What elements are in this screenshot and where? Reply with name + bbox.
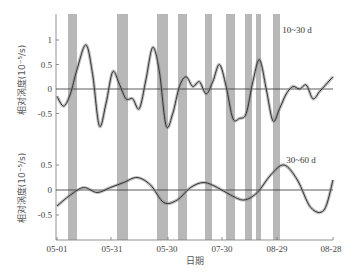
ytick-top-0.5: 0.5 bbox=[41, 60, 53, 70]
series-line bbox=[57, 165, 333, 213]
xtick-0: 05-01 bbox=[47, 244, 68, 254]
x-ticks bbox=[57, 237, 333, 240]
highlight-band bbox=[273, 14, 280, 240]
y-axis-label-top: 相对涡度(10⁻⁵/s) bbox=[16, 45, 27, 116]
ytick-top-1: 1 bbox=[48, 35, 53, 45]
highlight-band bbox=[205, 14, 212, 240]
highlight-band bbox=[117, 14, 128, 240]
panel-label-bottom: 30~60 d bbox=[286, 155, 316, 165]
series-bottom-30-60d bbox=[57, 165, 333, 213]
x-axis-label: 日期 bbox=[186, 256, 204, 266]
ytick-bottom-0: 0 bbox=[48, 185, 53, 195]
ytick-bottom-0.5: 0.5 bbox=[41, 160, 53, 170]
spread-band bbox=[57, 45, 333, 128]
xtick-4: 08-29 bbox=[267, 244, 288, 254]
xtick-2: 05-30 bbox=[157, 244, 178, 254]
highlight-band bbox=[256, 14, 261, 240]
highlight-band bbox=[245, 14, 252, 240]
ytick-top-neg0.5: -0.5 bbox=[38, 109, 53, 119]
xtick-3: 07-30 bbox=[212, 244, 233, 254]
highlight-band bbox=[226, 14, 235, 240]
panel-label-top: 10~30 d bbox=[282, 25, 312, 35]
xtick-5: 08-28 bbox=[321, 244, 342, 254]
y-axis-label-bottom: 相对涡度(10⁻⁵/s) bbox=[16, 153, 27, 224]
ytick-top-0: 0 bbox=[48, 84, 53, 94]
y-ticks-top bbox=[56, 40, 59, 215]
series-top-10-30d bbox=[57, 45, 333, 128]
highlight-band bbox=[178, 14, 187, 240]
ytick-bottom-neg0.5: -0.5 bbox=[38, 210, 53, 220]
xtick-1: 05-31 bbox=[102, 244, 123, 254]
chart-figure: 1 0.5 0 -0.5 0.5 0 -0.5 相对涡度(10⁻⁵/s) 相对涡… bbox=[0, 0, 355, 272]
highlight-band bbox=[68, 14, 77, 240]
